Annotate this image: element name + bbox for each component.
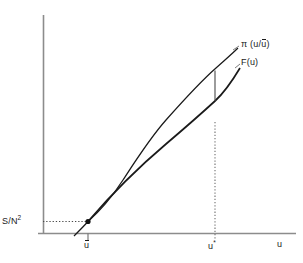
x-tick-label-ustar-sup: *: [213, 239, 216, 246]
tangency-dot: [85, 219, 90, 224]
f-curve: [88, 68, 240, 222]
x-tick-label-ubar: u: [84, 241, 89, 250]
x-axis-label: u: [277, 240, 282, 249]
figure-canvas: π (u/u) F(u) S/N2 u u* u: [0, 0, 303, 263]
pi-curve: [74, 48, 238, 236]
y-intercept-label-base: S/N: [2, 216, 18, 226]
y-intercept-label-exponent: 2: [18, 214, 22, 221]
y-intercept-label: S/N2: [2, 215, 21, 226]
pi-curve-label-overline-u: u: [261, 40, 266, 49]
pi-curve-label: π (u/u): [241, 40, 270, 49]
x-tick-label-ustar: u*: [208, 240, 216, 251]
x-tick-label-ubar-base: u: [84, 241, 89, 250]
pi-curve-label-prefix: π (u/: [241, 39, 261, 49]
f-label-leader: [235, 64, 240, 68]
pi-curve-label-suffix: ): [266, 39, 269, 49]
f-curve-label: F(u): [241, 58, 258, 67]
